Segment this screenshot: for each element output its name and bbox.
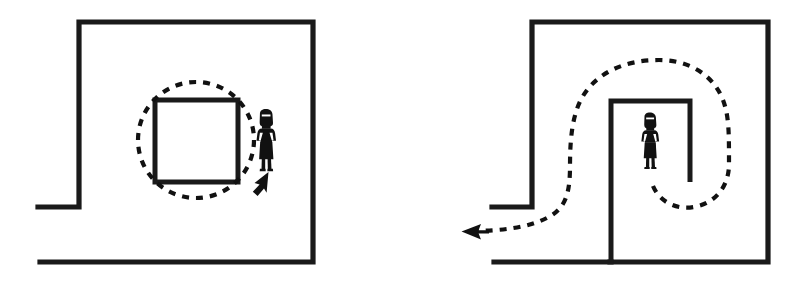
right-person-icon	[641, 112, 659, 169]
right-route-arrow-icon	[462, 224, 490, 240]
figure-root	[0, 0, 804, 288]
left-route-arrow-icon	[253, 172, 269, 196]
left-person-icon	[256, 109, 276, 171]
left-square-obstacle	[155, 100, 238, 182]
route-diagram-svg	[0, 0, 804, 288]
left-panel	[38, 22, 313, 262]
right-room-walls	[492, 22, 768, 262]
right-panel	[462, 22, 769, 262]
